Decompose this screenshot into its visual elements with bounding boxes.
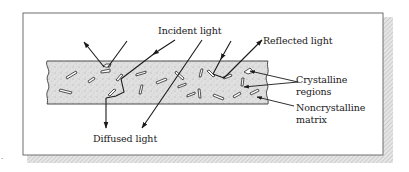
diagram-figure: Incident light Reflected light Crystalli… xyxy=(0,0,409,172)
label-incident-light: Incident light xyxy=(158,25,222,36)
label-crystalline-line2: regions xyxy=(296,86,331,97)
label-noncrystalline-line1: Noncrystalline xyxy=(296,102,365,113)
label-crystalline-line1: Crystalline xyxy=(296,74,347,85)
figure-marker: . xyxy=(1,151,3,161)
label-noncrystalline-line2: matrix xyxy=(296,114,327,125)
label-diffused-light: Diffused light xyxy=(93,133,157,144)
label-reflected-light: Reflected light xyxy=(263,35,332,46)
